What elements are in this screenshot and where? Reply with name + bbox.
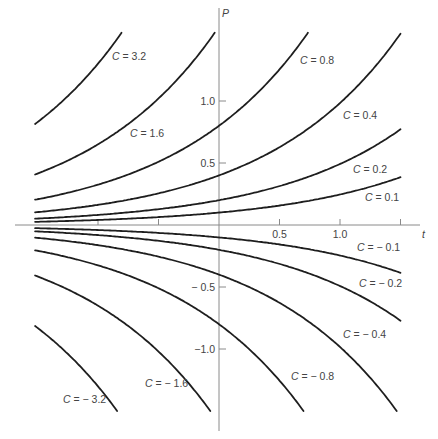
curve-label: C = − 3.2 — [63, 393, 106, 405]
y-tick-label: −1.0 — [194, 343, 215, 355]
curve-label: C = 3.2 — [112, 50, 146, 62]
curve-label: C = 0.1 — [365, 191, 399, 203]
curve-c-3_2 — [35, 33, 121, 124]
curve-labels: C = 3.2C = 1.6C = 0.8C = 0.4C = 0.2C = 0… — [63, 50, 402, 405]
y-axis-label: P — [222, 7, 229, 19]
curve-label: C = 0.8 — [300, 54, 334, 66]
curve-c-0_4 — [35, 34, 400, 213]
curve-label: C = 0.4 — [343, 109, 377, 121]
curve-c-0_8 — [35, 33, 308, 200]
curve-label: C = − 0.1 — [357, 241, 400, 253]
y-tick-label: − 0.5 — [191, 281, 215, 293]
curve-label: C = − 0.2 — [359, 277, 402, 289]
y-tick-label: 0.5 — [200, 157, 215, 169]
axes: 0.51.01.00.5− 0.5−1.0tP — [15, 7, 426, 431]
curve-label: C = 1.6 — [130, 127, 164, 139]
x-tick-label: 0.5 — [272, 228, 287, 240]
curve-label: C = − 0.4 — [343, 328, 386, 340]
y-tick-label: 1.0 — [200, 95, 215, 107]
curve-label: C = − 1.6 — [145, 377, 188, 389]
curve-c-neg1_6 — [35, 276, 210, 412]
curve-label: C = − 0.8 — [291, 370, 334, 382]
curve-label: C = 0.2 — [353, 163, 387, 175]
x-tick-label: 1.0 — [333, 228, 348, 240]
x-axis-label: t — [422, 228, 426, 240]
solution-curves — [35, 33, 400, 411]
chart-canvas: 0.51.01.00.5− 0.5−1.0tP C = 3.2C = 1.6C … — [0, 0, 438, 439]
